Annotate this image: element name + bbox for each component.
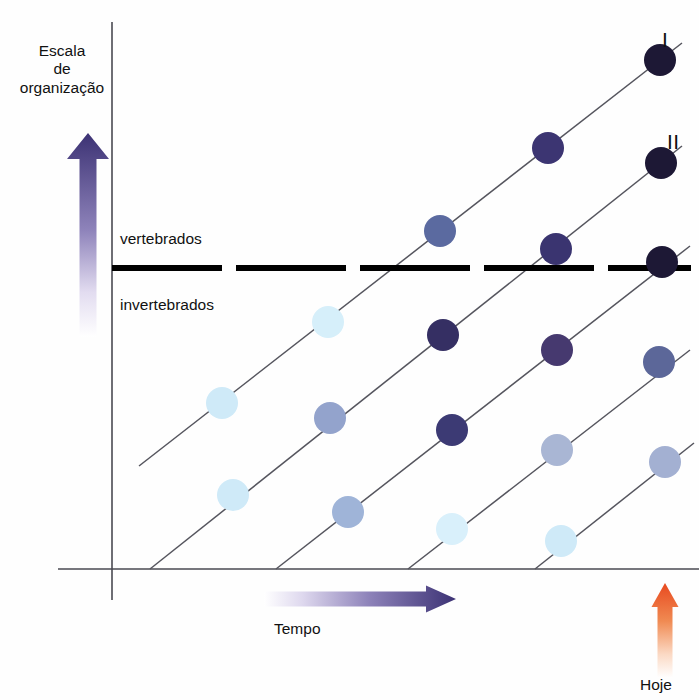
x-axis-label-tempo: Tempo [274,620,321,638]
organism-dot [436,414,468,446]
y-axis-title: Escaladeorganização [8,42,116,97]
lineage-label-i: I [662,28,668,53]
organism-dot [545,525,577,557]
organism-dot [649,446,681,478]
organism-dot [424,215,456,247]
organism-dot [206,387,238,419]
organism-dot [436,513,468,545]
organism-dot [541,434,573,466]
organism-dot [541,334,573,366]
zone-label-invertebrados: invertebrados [120,296,214,314]
lineage-label-ii: II [667,130,680,155]
organism-dots-group [206,44,681,557]
organism-dot [314,402,346,434]
organism-dot [643,346,675,378]
tempo-arrow [264,586,456,613]
y-axis-title-line: de [8,60,116,78]
organism-dot [646,246,678,278]
organism-dot [332,496,364,528]
y-axis-title-line: Escala [8,42,116,60]
diagram-graphics [0,0,699,700]
organism-dot [532,132,564,164]
today-label-hoje: Hoje [640,676,672,694]
organism-dot [644,44,676,76]
hoje-arrow [652,583,679,678]
escala-organizacao-arrow [67,133,109,337]
arrows-group [67,133,679,678]
zone-label-vertebrados: vertebrados [120,230,202,248]
organism-dot [217,479,249,511]
organism-dot [312,306,344,338]
organism-dot [427,319,459,351]
organism-dot [540,233,572,265]
y-axis-title-line: organização [8,79,116,97]
figure-canvas: Escaladeorganização vertebrados inverteb… [0,0,699,700]
